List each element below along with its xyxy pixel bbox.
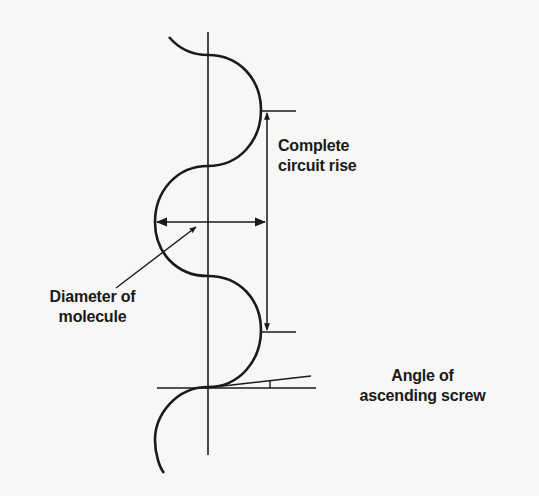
diameter-label: Diameter of molecule [30,287,155,327]
helix-drawing [0,0,539,496]
angle-incline [205,376,311,388]
angle-label: Angle of ascending screw [335,366,510,406]
diameter-label-line1: Diameter of [30,287,155,307]
angle-label-line1: Angle of [335,366,510,386]
circuit-rise-label-line2: circuit rise [278,156,357,176]
circuit-rise-label-line1: Complete [278,136,357,156]
angle-label-line2: ascending screw [335,386,510,406]
helix-diagram: Complete circuit rise Diameter of molecu… [0,0,539,496]
diameter-label-line2: molecule [30,307,155,327]
circuit-rise-label: Complete circuit rise [278,136,357,176]
